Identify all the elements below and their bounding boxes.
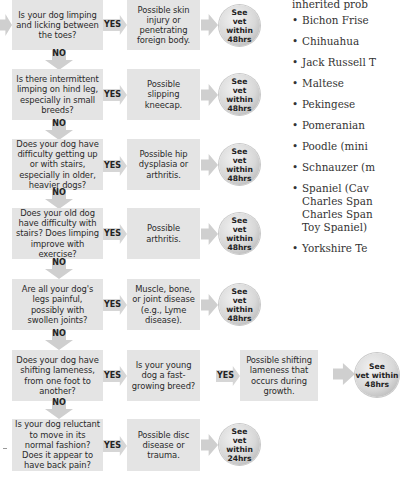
question-box-2: Is there intermittent limping on hind le… bbox=[12, 69, 103, 120]
list-item-label: Pekingese bbox=[302, 98, 355, 110]
yes-label: YES bbox=[104, 20, 121, 30]
outcome-text: See vet within 24hrs bbox=[219, 427, 260, 463]
outcome-circle-5: See vet within 48hrs bbox=[219, 284, 260, 325]
list-item-label: Poodle (mini bbox=[302, 140, 368, 152]
bullet-icon: • bbox=[292, 14, 298, 27]
answer-box-3: Possible hip dysplasia or arthritis. bbox=[127, 139, 200, 190]
outcome-arrow-5 bbox=[201, 294, 218, 316]
bullet-icon: • bbox=[292, 242, 298, 255]
no-label: NO bbox=[45, 49, 73, 59]
answer-box-6: Is your young dog a fast-growing breed? bbox=[127, 350, 200, 401]
answer-box-1: Possible skin injury or penetrating fore… bbox=[127, 0, 200, 50]
yes-label: YES bbox=[104, 161, 121, 171]
yes-arrow-7: YES bbox=[103, 436, 127, 456]
incoming-arrow bbox=[0, 14, 12, 36]
list-item-label: Schnauzer (m bbox=[302, 161, 375, 173]
yes-label: YES bbox=[104, 300, 121, 310]
list-item-label: Yorkshire Te bbox=[302, 242, 368, 254]
question-box-6: Does your dog have shifting lameness, fr… bbox=[12, 350, 103, 401]
no-label: NO bbox=[45, 258, 73, 268]
outcome-arrow-4 bbox=[201, 223, 218, 245]
bullet-icon: • bbox=[292, 98, 298, 111]
outcome-text: See vet within 48hrs bbox=[355, 362, 398, 389]
incoming-connector-tick bbox=[3, 448, 7, 449]
outcome-text: See vet within 48hrs bbox=[219, 287, 260, 323]
outcome-circle-7: See vet within 24hrs bbox=[219, 424, 260, 465]
answer-box-4: Possible arthritis. bbox=[127, 208, 200, 259]
yes-arrow-1: YES bbox=[103, 15, 127, 35]
list-item: •Pekingese bbox=[292, 98, 376, 111]
yes-label: YES bbox=[217, 371, 234, 381]
yes-arrow-6b: YES bbox=[216, 366, 240, 386]
question-box-4: Does your old dog have difficulty with s… bbox=[12, 208, 103, 259]
outcome-arrow-2 bbox=[201, 84, 218, 106]
yes-arrow-5: YES bbox=[103, 295, 127, 315]
outcome-text: See vet within 48hrs bbox=[219, 77, 260, 113]
list-item: •Chihuahua bbox=[292, 35, 376, 48]
outcome-text: See vet within 48hrs bbox=[219, 216, 260, 252]
outcome-arrow-1 bbox=[201, 14, 218, 36]
list-item-label: Bichon Frise bbox=[302, 14, 369, 26]
list-item-label: Maltese bbox=[302, 77, 344, 89]
outcome-circle-6: See vet within 48hrs bbox=[355, 353, 399, 397]
outcome-arrow-3 bbox=[201, 154, 218, 176]
breed-list: •Bichon Frise •Chihuahua •Jack Russell T… bbox=[292, 14, 376, 263]
no-arrow-3: NO bbox=[45, 189, 73, 209]
no-arrow-1: NO bbox=[45, 50, 73, 70]
no-arrow-6: NO bbox=[45, 399, 73, 419]
list-item: •Jack Russell T bbox=[292, 56, 376, 69]
list-item-label: Chihuahua bbox=[302, 35, 359, 47]
list-item: •Yorkshire Te bbox=[292, 242, 376, 255]
yes-label: YES bbox=[104, 229, 121, 239]
question-box-1: Is your dog limping and licking between … bbox=[12, 0, 103, 50]
list-item: •Maltese bbox=[292, 77, 376, 90]
no-arrow-4: NO bbox=[45, 259, 73, 279]
yes-arrow-2: YES bbox=[103, 85, 127, 105]
answer-box-2: Possible slipping kneecap. bbox=[127, 69, 200, 120]
bullet-icon: • bbox=[292, 182, 298, 195]
list-item: •Bichon Frise bbox=[292, 14, 376, 27]
no-arrow-2: NO bbox=[45, 120, 73, 140]
question-box-7: Is your dog reluctant to move in its nor… bbox=[12, 419, 103, 471]
yes-arrow-4: YES bbox=[103, 224, 127, 244]
question-box-3: Does your dog have difficulty getting up… bbox=[12, 139, 103, 190]
yes-label: YES bbox=[104, 90, 121, 100]
question-box-5: Are all your dog's legs painful, possibl… bbox=[12, 279, 103, 330]
yes-label: YES bbox=[104, 371, 121, 381]
bullet-icon: • bbox=[292, 35, 298, 48]
answer-box-7: Possible disc disease or trauma. bbox=[127, 419, 200, 471]
list-item: •Pomeranian bbox=[292, 119, 376, 132]
no-arrow-5: NO bbox=[45, 330, 73, 350]
list-item: •Spaniel (Cav Charles Span Charles Span … bbox=[292, 182, 376, 234]
no-label: NO bbox=[45, 119, 73, 129]
list-item: •Schnauzer (m bbox=[292, 161, 376, 174]
outcome-circle-2: See vet within 48hrs bbox=[219, 74, 260, 115]
bullet-icon: • bbox=[292, 56, 298, 69]
outcome-arrow-6 bbox=[333, 363, 355, 385]
outcome-circle-4: See vet within 48hrs bbox=[219, 213, 260, 254]
no-label: NO bbox=[45, 188, 73, 198]
outcome-text: See vet within 48hrs bbox=[219, 8, 260, 44]
yes-arrow-6: YES bbox=[103, 366, 127, 386]
answer-box-6b: Possible shifting lameness that occurs d… bbox=[240, 350, 318, 401]
answer-box-5: Muscle, bone, or joint disease (e.g., Ly… bbox=[127, 279, 200, 330]
list-item-label: Jack Russell T bbox=[302, 56, 376, 68]
list-item-label: Pomeranian bbox=[302, 119, 365, 131]
bullet-icon: • bbox=[292, 77, 298, 90]
yes-label: YES bbox=[104, 441, 121, 451]
yes-arrow-3: YES bbox=[103, 156, 127, 176]
outcome-text: See vet within 48hrs bbox=[219, 147, 260, 183]
bullet-icon: • bbox=[292, 119, 298, 132]
outcome-circle-3: See vet within 48hrs bbox=[219, 144, 260, 185]
outcome-arrow-7 bbox=[201, 434, 218, 456]
bullet-icon: • bbox=[292, 161, 298, 174]
bullet-icon: • bbox=[292, 140, 298, 153]
breed-list-intro: inherited prob bbox=[292, 0, 368, 10]
outcome-circle-1: See vet within 48hrs bbox=[219, 5, 260, 46]
no-label: NO bbox=[45, 329, 73, 339]
no-label: NO bbox=[45, 398, 73, 408]
list-item-label: Spaniel (Cav Charles Span Charles Span T… bbox=[302, 182, 373, 233]
list-item: •Poodle (mini bbox=[292, 140, 376, 153]
